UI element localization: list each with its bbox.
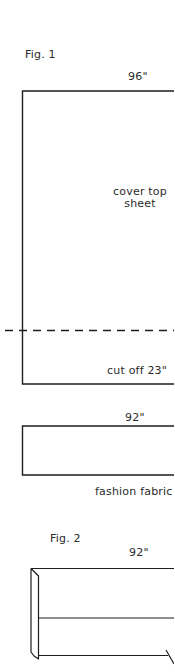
top-sheet-rectangle	[23, 91, 175, 384]
cut-off-label: cut off 23"	[107, 365, 167, 377]
top-sheet-body-label-line2: sheet	[112, 198, 168, 210]
top-sheet-width-label: 96"	[128, 71, 148, 83]
fashion-fabric-width-label: 92"	[125, 412, 145, 424]
top-sheet-body-label: cover top sheet	[112, 186, 168, 210]
diagram-canvas	[0, 0, 174, 672]
figure2-title: Fig. 2	[50, 533, 81, 545]
fig2-folded-fabric	[31, 569, 174, 665]
figure1-title: Fig. 1	[25, 49, 56, 61]
fashion-fabric-rectangle	[23, 426, 175, 475]
fashion-fabric-caption: fashion fabric	[95, 486, 173, 498]
figure2-width-label: 92"	[129, 547, 149, 559]
